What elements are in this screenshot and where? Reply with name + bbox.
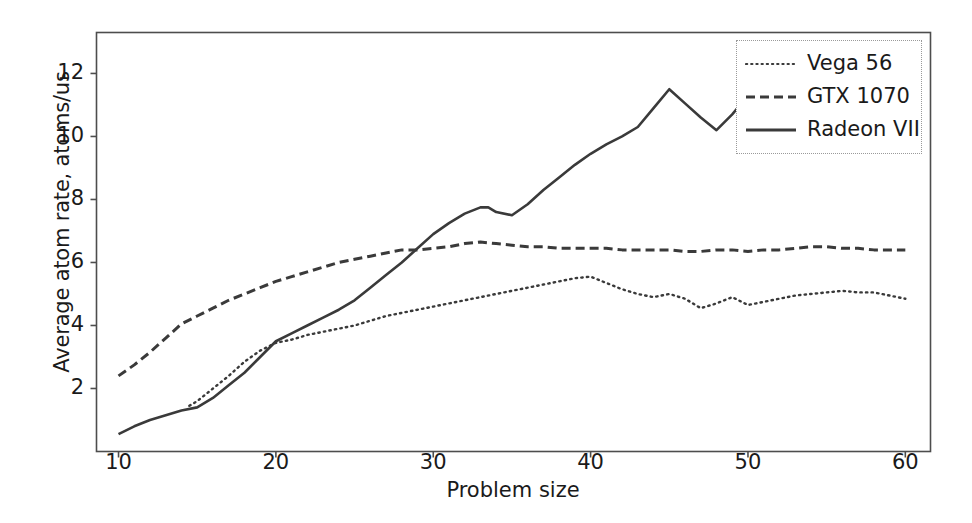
y-tick-label: 2 [50, 377, 84, 398]
legend-line-sample-solid [745, 123, 797, 137]
x-tick-label: 40 [561, 452, 621, 473]
y-tick-label: 6 [50, 251, 84, 272]
legend-line-sample-dashed [745, 90, 797, 104]
chart-figure: Average atom rate, atoms/us Problem size… [0, 0, 972, 523]
legend-label-radeon-vii: Radeon VII [807, 119, 920, 140]
series-line-gtx-1070 [119, 242, 906, 376]
legend-line-sample-dotted [745, 57, 797, 71]
x-tick-label: 60 [875, 452, 935, 473]
legend-item-radeon-vii: Radeon VII [745, 113, 913, 146]
y-tick-label: 12 [50, 62, 84, 83]
x-tick-label: 50 [718, 452, 778, 473]
y-tick-label: 4 [50, 314, 84, 335]
legend-item-gtx-1070: GTX 1070 [745, 80, 913, 113]
chart-legend: Vega 56 GTX 1070 Radeon VII [736, 40, 922, 154]
x-tick-label: 20 [246, 452, 306, 473]
series-line-vega-56 [189, 277, 905, 406]
x-tick-label: 10 [89, 452, 149, 473]
legend-label-vega-56: Vega 56 [807, 53, 892, 74]
x-tick-label: 30 [403, 452, 463, 473]
y-tick-label: 8 [50, 188, 84, 209]
x-tick-labels: 102030405060 [0, 452, 972, 482]
legend-label-gtx-1070: GTX 1070 [807, 86, 910, 107]
series-line-radeon-vii [119, 78, 764, 434]
y-tick-label: 10 [50, 125, 84, 146]
legend-item-vega-56: Vega 56 [745, 47, 913, 80]
y-tick-labels: 24681012 [46, 0, 84, 523]
